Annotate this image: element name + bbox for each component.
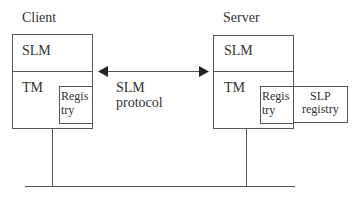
server-registry-label-2: try — [262, 104, 275, 117]
protocol-label-1: SLM — [116, 80, 145, 95]
client-slm-label: SLM — [22, 43, 51, 58]
server-registry-label-1: Regis — [262, 90, 289, 103]
client-registry-label-1: Regis — [61, 90, 88, 103]
client-registry-label-2: try — [61, 104, 74, 117]
server-title: Server — [223, 10, 260, 25]
arrow-left-icon — [98, 66, 108, 77]
arrow-right-icon — [199, 66, 209, 77]
server-slm-label: SLM — [224, 43, 253, 58]
server-network-link — [246, 129, 247, 186]
client-network-link — [52, 129, 53, 186]
client-divider — [12, 71, 93, 72]
protocol-label-2: protocol — [116, 95, 163, 110]
slp-registry-label-2: registry — [302, 103, 339, 116]
client-tm-label: TM — [22, 80, 43, 95]
protocol-arrow-line — [104, 71, 201, 72]
server-tm-label: TM — [224, 80, 245, 95]
client-title: Client — [22, 10, 56, 25]
server-divider — [213, 71, 294, 72]
network-bus — [25, 186, 295, 187]
